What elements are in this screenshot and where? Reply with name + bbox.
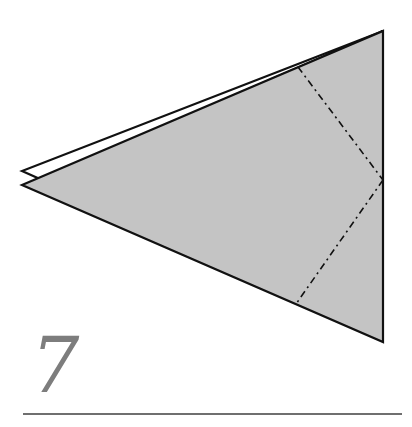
front-layer-paper	[22, 31, 383, 342]
step-number: 7	[31, 328, 79, 404]
divider-rule	[23, 413, 402, 415]
